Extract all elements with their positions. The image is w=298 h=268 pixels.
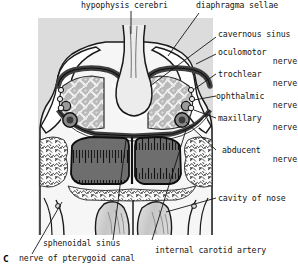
label-internal-carotid-artery: internal carotid artery bbox=[155, 246, 266, 256]
label-diaphragma-sellae: diaphragma sellae bbox=[196, 1, 278, 11]
left-cancellous-bone bbox=[40, 137, 68, 187]
label-nerve-of-pterygoid-canal: nerve of pterygoid canal bbox=[19, 254, 135, 264]
label-hypophysis-cerebri: hypophysis cerebri bbox=[81, 1, 168, 11]
left-sphenoidal-sinus-cavity bbox=[71, 137, 129, 184]
panel-key-letter: C bbox=[3, 253, 9, 264]
right-sphenoidal-sinus-cavity bbox=[135, 137, 181, 184]
label-trochlear-nerve-line2: nerve bbox=[218, 79, 297, 89]
label-cavernous-sinus: cavernous sinus bbox=[218, 30, 290, 40]
right-cancellous-bone bbox=[184, 137, 212, 187]
label-maxillary-nerve-line2: nerve bbox=[218, 123, 297, 133]
anatomical-figure-coronal-section: hypophysis cerebri diaphragma sellae cav… bbox=[0, 0, 298, 268]
anatomy-illustration bbox=[0, 0, 298, 268]
label-sphenoidal-sinus: sphenoidal sinus bbox=[43, 239, 120, 249]
label-cavity-of-nose: cavity of nose bbox=[218, 194, 286, 204]
right-lateral-wall-nerves bbox=[188, 87, 194, 110]
label-ophthalmic-nerve-line2: nerve bbox=[218, 101, 297, 111]
left-lateral-wall-nerves bbox=[57, 87, 63, 110]
label-abducent-nerve-line2: nerve bbox=[218, 155, 297, 165]
label-oculomotor-nerve-line2: nerve bbox=[218, 57, 297, 67]
